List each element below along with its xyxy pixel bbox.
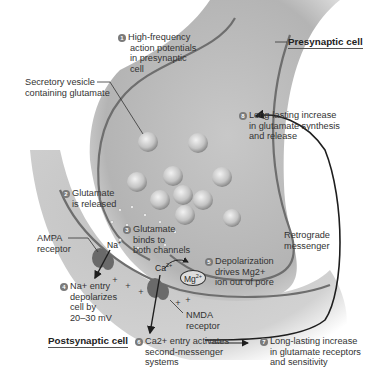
presynaptic-cell-title: Presynaptic cell	[288, 37, 363, 48]
retrograde-messenger-label: Retrograde messenger	[284, 230, 330, 251]
step-2-badge: 2	[62, 190, 70, 198]
step-1-label: 1High-frequency action potentials in pre…	[118, 32, 196, 74]
step-8-label: 8Long-lasting increase in glutamate synt…	[239, 110, 340, 142]
step-6-badge: 6	[135, 338, 143, 346]
step-7-badge: 7	[260, 338, 268, 346]
postsynaptic-cell-title: Postsynaptic cell	[48, 336, 128, 347]
nmda-receptor-label: NMDA receptor	[186, 310, 220, 331]
step-6-label: 6Ca2+ entry activates second-messenger s…	[135, 336, 229, 368]
svg-text:+: +	[185, 296, 191, 304]
step-4-label: 4Na+ entry depolarizes cell by 20–30 mV	[60, 281, 117, 323]
ampa-receptor-label: AMPA receptor	[37, 233, 71, 254]
step-5-badge: 5	[205, 258, 213, 266]
magnesium-ion-label: Mg2+	[180, 270, 206, 286]
step-3-label: 3Glutamate binds to both channels	[123, 224, 190, 256]
step-7-label: 7Long-lasting increase in glutamate rece…	[260, 336, 361, 368]
step-2-label: 2Glutamate is released	[62, 188, 116, 209]
sodium-ion-label: Na+	[107, 239, 121, 250]
step-4-badge: 4	[60, 283, 68, 291]
step-3-badge: 3	[123, 226, 131, 234]
calcium-ion-label: Ca2+	[155, 262, 172, 273]
vesicle-label: Secretory vesicle containing glutamate	[25, 77, 110, 98]
step-1-badge: 1	[118, 34, 126, 42]
step-8-badge: 8	[239, 112, 247, 120]
svg-text:+: +	[125, 282, 131, 290]
svg-text:+: +	[138, 288, 144, 296]
step-5-label: 5Depolarization drives Mg2+ ion out of p…	[205, 256, 274, 288]
